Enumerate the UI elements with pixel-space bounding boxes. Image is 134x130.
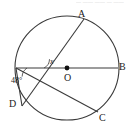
angle-label-x: x [50, 57, 54, 67]
point-label-b: B [119, 62, 126, 72]
chord-line-ld [16, 68, 22, 106]
point-label-a: A [78, 9, 85, 19]
chord-line-lc [16, 68, 98, 112]
point-label-d: D [9, 99, 16, 109]
angle-label-48: 48° [11, 76, 22, 86]
geometry-canvas [0, 0, 134, 130]
angle-arc-x [44, 59, 50, 68]
center-label-o: O [64, 73, 71, 83]
geometry-figure: — —— —— — —— A B C D O x 48° [0, 0, 134, 130]
point-label-c: C [99, 113, 106, 123]
center-point-dot [65, 66, 70, 71]
